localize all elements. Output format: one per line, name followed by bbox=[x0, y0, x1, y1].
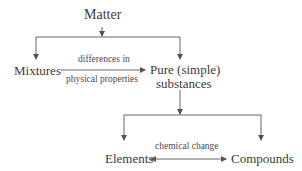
node-matter: Matter bbox=[84, 8, 121, 22]
edge-label-physical-properties: physical properties bbox=[66, 75, 138, 85]
connector-lines bbox=[0, 0, 302, 171]
edge-label-chemical-change: chemical change bbox=[155, 142, 219, 152]
node-pure-line2: substances bbox=[156, 77, 212, 90]
edge-label-differences: differences in bbox=[78, 55, 130, 65]
node-elements: Elements bbox=[105, 152, 153, 165]
node-mixtures: Mixtures bbox=[14, 64, 61, 77]
node-pure-line1: Pure (simple) bbox=[150, 63, 220, 76]
node-compounds: Compounds bbox=[231, 152, 294, 165]
